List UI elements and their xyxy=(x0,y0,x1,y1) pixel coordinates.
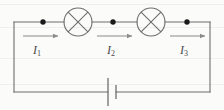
circuit-diagram-figure: I1 I2 I3 xyxy=(0,0,224,110)
current-subscript-i1: 1 xyxy=(37,49,41,58)
junction-node xyxy=(40,19,45,24)
lamp-2 xyxy=(137,8,165,36)
junction-node xyxy=(110,19,115,24)
lamp-1 xyxy=(64,8,92,36)
current-label-i3: I3 xyxy=(180,44,188,56)
current-label-i2: I2 xyxy=(107,44,115,56)
junction-node xyxy=(184,19,189,24)
current-subscript-i2: 2 xyxy=(111,49,115,58)
battery-symbol xyxy=(108,78,116,106)
current-label-i1: I1 xyxy=(33,44,41,56)
current-subscript-i3: 3 xyxy=(184,49,188,58)
